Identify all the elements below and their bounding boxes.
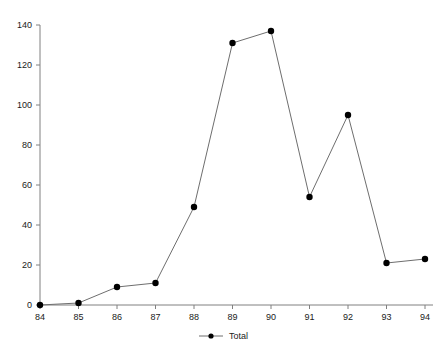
series-line-total <box>40 31 425 305</box>
series-group <box>37 28 428 308</box>
data-point <box>152 280 158 286</box>
x-axis-tick-label: 84 <box>35 313 45 322</box>
data-point <box>191 204 197 210</box>
x-axis-tick-label: 93 <box>381 313 391 322</box>
plot-area <box>0 0 446 358</box>
legend-entry-label: Total <box>229 332 248 341</box>
y-axis-tick-label: 80 <box>0 141 32 150</box>
line-chart: 020406080100120140 848586878889909192939… <box>0 0 446 358</box>
data-point <box>229 40 235 46</box>
chart-legend: Total <box>0 330 446 342</box>
x-axis-tick-label: 92 <box>343 313 353 322</box>
x-axis-tick-label: 89 <box>227 313 237 322</box>
x-axis-tick-label: 91 <box>304 313 314 322</box>
data-point <box>37 302 43 308</box>
x-axis-tick-label: 86 <box>112 313 122 322</box>
y-axis-tick-label: 120 <box>0 61 32 70</box>
x-axis-tick-label: 94 <box>420 313 430 322</box>
y-axis-tick-label: 40 <box>0 221 32 230</box>
data-point <box>75 300 81 306</box>
y-axis-tick-label: 0 <box>0 301 32 310</box>
x-axis-tick-label: 88 <box>189 313 199 322</box>
data-point <box>306 194 312 200</box>
x-axis-tick-label: 90 <box>266 313 276 322</box>
x-axis-tick-label: 85 <box>73 313 83 322</box>
y-axis-tick-label: 100 <box>0 101 32 110</box>
x-axis-tick-label: 87 <box>150 313 160 322</box>
y-axis-tick-label: 60 <box>0 181 32 190</box>
data-point <box>345 112 351 118</box>
y-axis-tick-label: 20 <box>0 261 32 270</box>
legend-marker-icon <box>198 330 224 342</box>
data-point <box>422 256 428 262</box>
axes-group <box>36 25 433 309</box>
data-point <box>114 284 120 290</box>
data-point <box>268 28 274 34</box>
data-point <box>383 260 389 266</box>
y-axis-tick-label: 140 <box>0 21 32 30</box>
